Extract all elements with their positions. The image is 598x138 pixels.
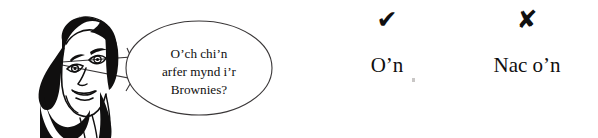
answer-option-yes[interactable]: ✔ O’n	[322, 0, 452, 100]
mouth-smile	[72, 90, 96, 100]
speech-bubble-line-2: arfer mynd i’r	[162, 64, 237, 79]
worksheet-image: O’ch chi’n arfer mynd i’r Brownies? ✔ O’…	[0, 0, 598, 138]
speech-bubble-line-3: Brownies?	[171, 82, 228, 97]
scan-artifact-speck	[412, 78, 415, 82]
speech-bubble-tail	[62, 48, 133, 91]
answer-label-yes: O’n	[322, 53, 452, 77]
cross-mark-icon: ✘	[462, 0, 592, 40]
check-mark-icon: ✔	[322, 0, 452, 40]
illustration-woman-with-speech-bubble: O’ch chi’n arfer mynd i’r Brownies?	[0, 0, 300, 138]
answer-label-no: Nac o’n	[462, 53, 592, 77]
answer-option-no[interactable]: ✘ Nac o’n	[462, 0, 592, 100]
speech-bubble-line-1: O’ch chi’n	[171, 46, 228, 61]
hair-shape	[39, 16, 119, 138]
